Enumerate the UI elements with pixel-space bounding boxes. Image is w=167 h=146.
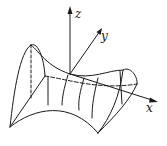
z-axis-arrow-icon — [68, 6, 73, 14]
x-axis-label: x — [146, 101, 153, 115]
left-parabola-edge — [10, 45, 45, 127]
saddle-surface-diagram: z y x — [0, 0, 167, 146]
bottom-front-edge — [10, 110, 98, 133]
cross-section-4 — [92, 78, 98, 118]
right-parabola-edge — [98, 69, 137, 133]
left-lobe-front-edge — [10, 76, 45, 127]
y-axis — [70, 31, 100, 74]
x-axis — [70, 74, 155, 101]
y-axis-label: y — [100, 29, 108, 43]
z-axis-label: z — [74, 7, 82, 21]
